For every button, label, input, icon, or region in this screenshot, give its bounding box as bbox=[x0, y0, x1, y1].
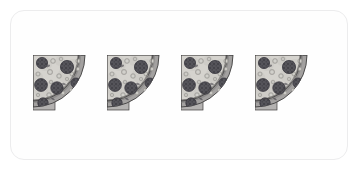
pizza-quarter-graphic bbox=[33, 55, 91, 117]
pizza-quarter-graphic bbox=[181, 55, 239, 117]
pizza-slice-row bbox=[11, 11, 349, 161]
pizza-quarter-2 bbox=[107, 55, 165, 117]
pizza-quarter-1 bbox=[33, 55, 91, 117]
screenshot-canvas bbox=[0, 0, 360, 172]
pizza-quarter-3 bbox=[181, 55, 239, 117]
pizza-quarter-graphic bbox=[107, 55, 165, 117]
pizza-quarter-graphic bbox=[255, 55, 313, 117]
image-card bbox=[10, 10, 348, 160]
pizza-quarter-4 bbox=[255, 55, 313, 117]
